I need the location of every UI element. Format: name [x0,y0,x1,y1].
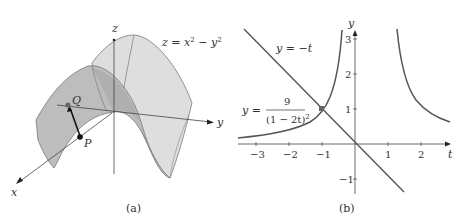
y-axis-label: y [216,116,224,129]
curve-label-denominator: (1 − 2t)2 [266,113,310,125]
x-tick-label: 2 [418,149,424,160]
curve-label-lhs: y = [241,104,261,117]
figure: z y x z = x2 − y2 Q P (a) −3 −2 −1 1 2 3 [0,0,464,223]
z-axis-label: z [111,22,118,35]
x-tick-label: −1 [316,149,331,160]
x-tick-label: −2 [283,149,298,160]
curve-right-branch [397,29,450,122]
panel-b-tick-labels: −3 −2 −1 1 2 3 2 1 −1 [250,34,424,185]
point-q [65,102,70,107]
t-axis-label: t [448,148,453,161]
panel-a-caption: (a) [126,202,141,215]
point-p [77,134,83,140]
y-tick-label: 1 [345,104,351,115]
x-tick-label: 1 [385,149,391,160]
point-q-label: Q [72,94,81,107]
y-tick-label: 2 [345,69,351,80]
y-tick-label: −1 [339,174,354,185]
y-tick-label: 3 [345,34,351,45]
intersection-point [319,106,324,111]
line-label: y = −t [275,42,313,55]
surface-equation-label: z = x2 − y2 [161,36,222,49]
point-p-label: P [83,137,92,150]
panel-b-caption: (b) [339,202,355,215]
x-tick-label: −3 [250,149,265,160]
x-axis-label: x [11,186,18,199]
curve-label: y = 9 (1 − 2t)2 [241,96,310,125]
curve-label-numerator: 9 [284,96,290,107]
y-axis-label-b: y [347,17,355,30]
